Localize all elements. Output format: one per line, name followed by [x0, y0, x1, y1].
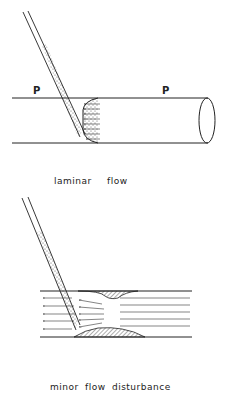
disturbed-flow-diagram [22, 197, 192, 337]
velocity-profile [83, 98, 100, 143]
laminar-flow-diagram [12, 11, 215, 143]
pressure-label-left: P [33, 85, 40, 96]
vessel-tube [12, 98, 215, 143]
caption-laminar-flow: laminar flow [54, 176, 128, 186]
caption-minor-flow-disturbance: minor flow disturbance [50, 382, 171, 392]
pressure-label-right: P [162, 85, 169, 96]
diagram-canvas [0, 0, 225, 396]
catheter [22, 197, 80, 330]
catheter [23, 11, 85, 137]
